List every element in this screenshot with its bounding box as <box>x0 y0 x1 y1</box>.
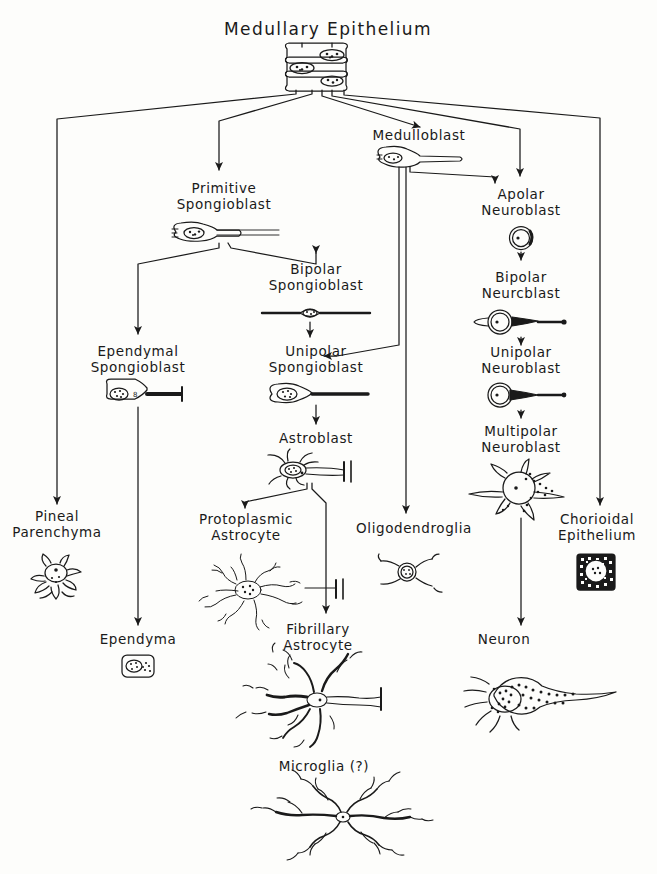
node-label-microglia[interactable]: Microglia (?) <box>279 759 369 775</box>
diagram-canvas: 8 <box>0 0 657 874</box>
edge-hub-to-pineal <box>57 90 296 504</box>
cell-neuron <box>464 677 616 732</box>
cell-ependymal-spongioblast: 8 <box>107 379 183 401</box>
edge-hub-to-primitive-spongioblast <box>219 90 312 170</box>
cell-protoplasmic-astrocyte <box>199 554 343 630</box>
cell-apolar-neuroblast <box>510 227 533 250</box>
node-label-astroblast[interactable]: Astroblast <box>279 431 353 447</box>
svg-text:8: 8 <box>133 391 137 399</box>
node-label-ependyma[interactable]: Ependyma <box>100 632 177 648</box>
cell-microglia <box>251 770 433 860</box>
cell-bipolar-neuroblast <box>474 310 567 334</box>
node-label-pineal-parenchyma[interactable]: Pineal Parenchyma <box>12 509 101 540</box>
cell-pineal-parenchyma <box>31 554 81 599</box>
page-title: Medullary Epithelium <box>224 20 432 39</box>
node-label-primitive-spongioblast[interactable]: Primitive Spongioblast <box>177 181 272 212</box>
cell-bipolar-spongioblast <box>262 309 370 317</box>
cell-epithelial-stack <box>285 43 347 91</box>
cell-medulloblast <box>377 146 462 167</box>
node-label-protoplasmic-astrocyte[interactable]: Protoplasmic Astrocyte <box>199 512 293 543</box>
edge-astroblast-to-fibrillary <box>312 483 326 613</box>
edge-primitive-to-ependymal <box>138 243 219 334</box>
node-label-apolar-neuroblast[interactable]: Apolar Neuroblast <box>481 187 560 218</box>
node-label-fibrillary-astrocyte[interactable]: Fibrillary Astrocyte <box>283 622 353 653</box>
cell-unipolar-neuroblast <box>488 383 566 407</box>
cell-primitive-spongioblast <box>172 222 279 241</box>
node-label-unipolar-neuroblast[interactable]: Unipolar Neuroblast <box>481 345 560 376</box>
node-label-unipolar-spongioblast[interactable]: Unipolar Spongioblast <box>269 344 364 375</box>
node-label-chorioidal-epithelium[interactable]: Chorioidal Epithelium <box>558 512 636 543</box>
cell-oligodendroglia <box>378 554 442 592</box>
cell-fibrillary-astrocyte <box>236 643 381 747</box>
node-label-oligodendroglia[interactable]: Oligodendroglia <box>356 521 472 537</box>
node-label-ependymal-spongioblast[interactable]: Ependymal Spongioblast <box>91 344 186 375</box>
edge-astroblast-to-protoplasmic <box>245 483 307 508</box>
node-label-multipolar-neuroblast[interactable]: Multipolar Neuroblast <box>481 424 560 455</box>
edge-hub-to-chorioidal <box>344 90 600 505</box>
cell-multipolar-neuroblast <box>469 459 564 520</box>
node-label-bipolar-spongioblast[interactable]: Bipolar Spongioblast <box>269 262 364 293</box>
cell-astroblast <box>268 449 351 489</box>
cell-unipolar-spongioblast <box>270 383 368 402</box>
cell-ependyma <box>122 655 154 677</box>
node-label-bipolar-neuroblast[interactable]: Bipolar Neurcblast <box>482 270 561 301</box>
edge-medulloblast-to-apolar <box>410 167 495 183</box>
node-label-medulloblast[interactable]: Medulloblast <box>373 128 466 144</box>
node-label-neuron[interactable]: Neuron <box>478 632 531 648</box>
cell-chorioidal-epithelium <box>577 554 615 590</box>
